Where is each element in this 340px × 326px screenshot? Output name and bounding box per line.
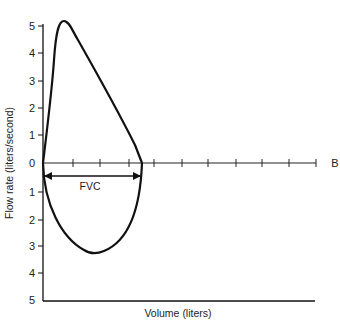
y-tick-label: 1 [29,186,35,198]
y-tick-labels-expiration: 5 4 3 2 1 0 [29,20,35,169]
y-tick-label: 3 [29,240,35,252]
y-tick-label: 0 [29,157,35,169]
y-tick-label: 4 [29,47,35,59]
y-tick-label: 5 [29,20,35,32]
y-ticks [38,26,43,273]
y-tick-label: 5 [29,294,35,306]
panel-label: B [331,157,338,169]
y-tick-label: 4 [29,267,35,279]
y-tick-label: 2 [29,102,35,114]
y-tick-label: 2 [29,214,35,226]
fvc-label: FVC [80,180,101,192]
y-tick-label: 1 [29,129,35,141]
flow-volume-loop-figure: 5 4 3 2 1 0 1 2 3 4 5 FVC B Volume (lite… [0,0,340,326]
y-axis-title: Flow rate (liters/second) [3,107,15,219]
y-tick-label: 3 [29,75,35,87]
x-axis-title: Volume (liters) [144,307,211,319]
expiratory-curve [43,21,142,163]
y-tick-labels-inspiration: 1 2 3 4 5 [29,186,35,306]
